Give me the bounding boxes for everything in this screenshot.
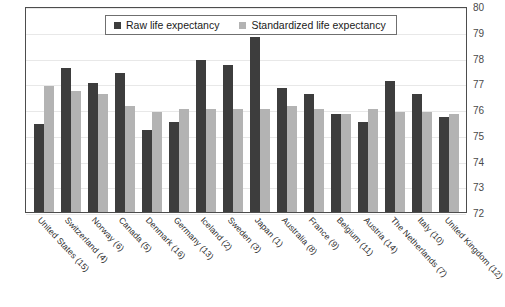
- legend-swatch-raw-icon: [114, 22, 121, 29]
- y-axis-tick-label: 74: [473, 156, 484, 167]
- x-axis-tick: The Netherlands (7): [382, 213, 409, 307]
- bar-standardized: [44, 86, 54, 212]
- bar-standardized: [395, 112, 405, 212]
- x-axis-tick: Japan (1): [247, 213, 274, 307]
- y-axis-tick-label: 78: [473, 53, 484, 64]
- x-axis-tick: Sweden (3): [219, 213, 246, 307]
- bar-group: [111, 8, 138, 212]
- bar-raw: [223, 65, 233, 212]
- x-axis-tick: Belgium (11): [328, 213, 355, 307]
- x-axis-tick: United States (15): [29, 213, 56, 307]
- x-axis-labels: United States (15)Switzerland (4)Norway …: [25, 213, 467, 307]
- bar-raw: [61, 68, 71, 212]
- x-axis-tick: France (9): [301, 213, 328, 307]
- x-axis-tick: Canada (5): [111, 213, 138, 307]
- bar-standardized: [260, 109, 270, 212]
- chart-legend: Raw life expectancy Standardized life ex…: [105, 15, 397, 35]
- y-axis-tick-label: 76: [473, 105, 484, 116]
- bar-raw: [169, 122, 179, 212]
- x-axis-tick: Italy (10): [410, 213, 437, 307]
- bar-raw: [385, 81, 395, 212]
- bar-standardized: [206, 109, 216, 212]
- x-axis-tick: Switzerland (4): [56, 213, 83, 307]
- bar-standardized: [125, 106, 135, 212]
- bar-group: [57, 8, 84, 212]
- y-axis-tick-label: 80: [473, 2, 484, 13]
- legend-item-standardized: Standardized life expectancy: [239, 19, 385, 31]
- bar-group: [436, 8, 463, 212]
- x-axis-tick: Australia (8): [274, 213, 301, 307]
- x-axis-tick-label: United Kingdom (12): [443, 215, 505, 281]
- x-axis-tick: United Kingdom (12): [437, 213, 464, 307]
- bar-standardized: [71, 91, 81, 212]
- legend-label-standardized: Standardized life expectancy: [251, 19, 385, 31]
- bar-group: [192, 8, 219, 212]
- x-axis-tick: Austria (14): [355, 213, 382, 307]
- bar-group: [138, 8, 165, 212]
- legend-item-raw: Raw life expectancy: [114, 19, 219, 31]
- y-axis-tick-label: 75: [473, 130, 484, 141]
- bar-raw: [331, 114, 341, 212]
- legend-swatch-standardized-icon: [239, 22, 246, 29]
- clipped-caption-text: [34, 0, 284, 4]
- bar-standardized: [341, 114, 351, 212]
- bar-group: [382, 8, 409, 212]
- bar-group: [328, 8, 355, 212]
- bar-standardized: [368, 109, 378, 212]
- y-axis-tick-label: 72: [473, 208, 484, 219]
- bar-group: [409, 8, 436, 212]
- y-axis-tick-label: 73: [473, 182, 484, 193]
- bar-raw: [250, 37, 260, 212]
- bar-raw: [142, 130, 152, 212]
- bar-group: [165, 8, 192, 212]
- bar-group: [30, 8, 57, 212]
- bar-group: [274, 8, 301, 212]
- bar-raw: [358, 122, 368, 212]
- bar-raw: [34, 124, 44, 212]
- bar-group: [84, 8, 111, 212]
- bar-group: [301, 8, 328, 212]
- bar-raw: [439, 117, 449, 212]
- x-axis-tick: Norway (6): [83, 213, 110, 307]
- bar-group: [219, 8, 246, 212]
- y-axis: 807978777675747372: [470, 0, 498, 220]
- bar-raw: [88, 83, 98, 212]
- y-axis-tick-label: 77: [473, 79, 484, 90]
- bar-standardized: [449, 114, 459, 212]
- bar-group: [355, 8, 382, 212]
- bar-standardized: [98, 94, 108, 212]
- bar-standardized: [233, 109, 243, 212]
- bar-raw: [196, 60, 206, 212]
- x-axis-tick: Iceland (2): [192, 213, 219, 307]
- bar-standardized: [179, 109, 189, 212]
- bar-standardized: [422, 112, 432, 212]
- bar-raw: [277, 88, 287, 212]
- bar-standardized: [287, 106, 297, 212]
- bar-standardized: [152, 112, 162, 212]
- legend-label-raw: Raw life expectancy: [126, 19, 219, 31]
- x-axis-tick: Germany (13): [165, 213, 192, 307]
- bar-raw: [115, 73, 125, 212]
- bar-raw: [412, 94, 422, 212]
- y-axis-tick-label: 79: [473, 27, 484, 38]
- bar-groups: [26, 8, 466, 212]
- bar-group: [247, 8, 274, 212]
- bar-raw: [304, 94, 314, 212]
- plot-area: [25, 7, 467, 213]
- x-axis-tick: Denmark (16): [138, 213, 165, 307]
- bar-standardized: [314, 109, 324, 212]
